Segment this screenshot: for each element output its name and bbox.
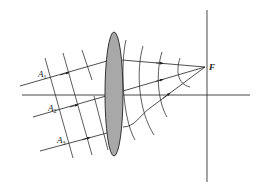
lens-diagram: A1 A2 A3 F bbox=[0, 0, 263, 194]
refracted-rays bbox=[122, 60, 205, 127]
incoming-rays bbox=[20, 61, 107, 151]
converging-wavefronts bbox=[123, 40, 190, 140]
diagram-canvas: A1 A2 A3 F bbox=[0, 0, 263, 194]
label-a2: A2 bbox=[47, 103, 57, 114]
incoming-wavefronts bbox=[45, 50, 108, 158]
convex-lens bbox=[105, 32, 123, 156]
label-a1: A1 bbox=[37, 69, 47, 80]
label-a3: A3 bbox=[56, 135, 66, 146]
label-focus: F bbox=[208, 62, 215, 72]
